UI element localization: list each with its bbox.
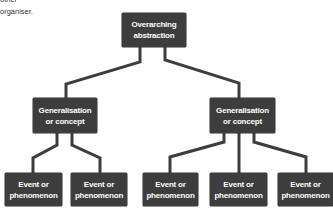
node-label-line1: Event or [290, 179, 320, 190]
connector-gen-right-to-event-3 [170, 132, 224, 174]
connector-root-to-gen-right [165, 46, 239, 99]
node-label-line2: phenomenon [281, 190, 329, 201]
node-label-line2: abstraction [134, 30, 175, 41]
connector-gen-left-to-event-1 [33, 132, 57, 174]
node-label-line1: Overarching [132, 19, 177, 30]
node-label-line1: Generalisation [39, 105, 92, 116]
node-label-line2: phenomenon [75, 190, 123, 201]
node-label-line1: Event or [18, 179, 48, 190]
node-label-line2: phenomenon [9, 190, 57, 201]
connector-root-to-gen-left [66, 46, 140, 99]
node-event-1: Event or phenomenon [5, 173, 62, 206]
node-event-5: Event or phenomenon [278, 173, 333, 206]
connector-gen-right-to-event-5 [254, 132, 306, 174]
node-label-line2: or concept [46, 116, 85, 127]
node-label-line2: phenomenon [146, 190, 194, 201]
node-label-line2: phenomenon [214, 190, 262, 201]
node-label-line2: or concept [223, 116, 262, 127]
node-label-line1: Event or [155, 179, 185, 190]
node-generalisation-left: Generalisation or concept [33, 98, 97, 133]
node-event-2: Event or phenomenon [71, 173, 127, 206]
node-event-4: Event or phenomenon [210, 173, 267, 206]
node-event-3: Event or phenomenon [143, 173, 198, 206]
node-label-line1: Generalisation [216, 105, 269, 116]
connector-gen-left-to-event-2 [72, 132, 100, 174]
node-overarching-abstraction: Overarching abstraction [122, 13, 186, 47]
node-label-line1: Event or [223, 179, 253, 190]
node-generalisation-right: Generalisation or concept [210, 98, 275, 133]
node-label-line1: Event or [84, 179, 114, 190]
